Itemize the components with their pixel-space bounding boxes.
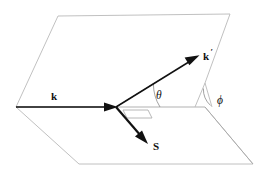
reference-plane: [16, 14, 230, 107]
scattering-diagram-svg: k k ′ S θ ϕ: [0, 0, 265, 178]
phi-angle-label: ϕ: [217, 94, 223, 107]
scattering-plane-face: [16, 107, 253, 164]
k-prime-vector-prime-mark: ′: [211, 47, 214, 57]
k-prime-vector-label: k: [203, 50, 210, 62]
theta-angle-label: θ: [156, 89, 162, 101]
scattering-plane: [16, 107, 253, 164]
reference-plane-lower-left-edge: [195, 83, 205, 107]
k-vector-label: k: [51, 90, 58, 102]
scattering-diagram: k k ′ S θ ϕ: [0, 0, 265, 178]
s-vector-label: S: [153, 140, 159, 152]
reference-plane-face: [16, 14, 230, 107]
